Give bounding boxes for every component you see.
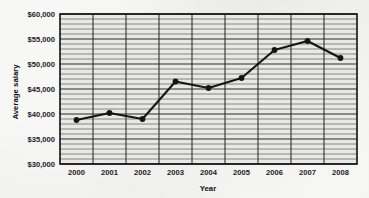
x-axis-tick-label: 2007: [299, 168, 316, 177]
y-axis-tick-label: $60,000: [28, 10, 55, 19]
y-axis-tick-label: $45,000: [28, 85, 55, 94]
data-point-marker: 2004: 45200: [206, 85, 212, 91]
data-point-marker: 2007: 54600: [305, 38, 311, 44]
data-point-marker: 2005: 47200: [239, 75, 245, 81]
y-axis-title: Average salary: [11, 64, 20, 120]
y-axis-tick-label: $35,000: [28, 135, 55, 144]
data-point-marker: 2001: 40200: [107, 110, 113, 116]
data-point-marker: 2002: 39000: [140, 116, 146, 122]
x-axis-tick-label: 2006: [266, 168, 283, 177]
y-axis-tick-label: $40,000: [28, 110, 55, 119]
x-axis-tick-label: 2002: [134, 168, 151, 177]
x-axis-tick-label: 2001: [101, 168, 119, 177]
x-axis-tick-label: 2000: [68, 168, 85, 177]
x-axis-tick-label: 2008: [332, 168, 349, 177]
x-axis-tick-labels: 200020012002200320042005200620072008: [68, 168, 349, 177]
chart-canvas: 2000: 388002001: 402002002: 390002003: 4…: [0, 0, 369, 198]
data-point-marker: 2003: 46500: [173, 79, 179, 85]
x-axis-tick-label: 2003: [167, 168, 184, 177]
line-chart-figure: 2000: 388002001: 402002002: 390002003: 4…: [0, 0, 369, 198]
y-axis-tick-label: $30,000: [28, 160, 55, 169]
x-axis-title: Year: [200, 184, 216, 193]
y-axis-tick-label: $50,000: [28, 60, 55, 69]
data-point-marker: 2006: 52800: [272, 47, 278, 53]
data-point-marker: 2000: 38800: [74, 117, 80, 123]
data-point-marker: 2008: 51200: [338, 55, 344, 61]
y-axis-tick-label: $55,000: [28, 35, 55, 44]
x-axis-tick-label: 2004: [200, 168, 218, 177]
y-axis-tick-labels: $30,000$35,000$40,000$45,000$50,000$55,0…: [28, 10, 55, 169]
x-axis-tick-label: 2005: [233, 168, 251, 177]
